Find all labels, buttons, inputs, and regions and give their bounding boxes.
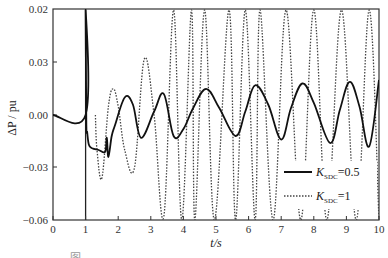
y-tick-label: −0.06 [23, 214, 49, 226]
legend: KSDC=0.5 KSDC=1 [280, 161, 377, 209]
x-tick-label: 5 [213, 223, 219, 235]
x-tick-label: 0 [50, 223, 56, 235]
x-tick-label: 8 [311, 223, 317, 235]
chart: 0.02 0.03 0.00 −0.03 −0.06 012345678910 … [0, 0, 388, 258]
y-tick-label: 0.00 [29, 109, 49, 121]
x-axis-label: t/s [210, 236, 222, 250]
x-tick-label: 1 [83, 223, 89, 235]
x-tick-label: 9 [344, 223, 350, 235]
x-tick-label: 7 [278, 223, 284, 235]
x-tick-label: 4 [181, 223, 187, 235]
y-tick-label: 0.03 [29, 56, 49, 68]
x-tick-label: 3 [148, 223, 154, 235]
y-axis: 0.02 0.03 0.00 −0.03 −0.06 [23, 3, 57, 226]
series-ksdc-0-5 [53, 10, 379, 157]
x-tick-label: 2 [115, 223, 121, 235]
x-tick-label: 6 [246, 223, 252, 235]
figure-caption: 图 ... ... ... ... [70, 251, 330, 258]
y-axis-label: ΔP / pu [5, 100, 19, 135]
legend-label-ksdc-0-5: KSDC=0.5 [315, 165, 359, 181]
y-tick-label: −0.03 [23, 161, 49, 173]
x-axis: 012345678910 [50, 216, 385, 235]
y-tick-label: 0.02 [29, 3, 48, 15]
x-tick-label: 10 [374, 223, 386, 235]
